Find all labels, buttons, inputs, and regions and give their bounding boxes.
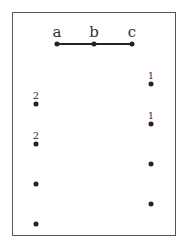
node-a <box>55 42 60 47</box>
right-dot-4 <box>149 202 154 207</box>
node-label-a: a <box>53 25 62 40</box>
node-label-c: c <box>128 25 136 40</box>
node-label-b: b <box>89 25 99 40</box>
left-dot-4 <box>34 222 39 227</box>
right-dot-1 <box>149 82 154 87</box>
right-dot-2 <box>149 122 154 127</box>
left-dot-1 <box>34 102 39 107</box>
left-dot-label-2: 2 <box>33 131 39 141</box>
node-c <box>130 42 135 47</box>
node-b <box>92 42 97 47</box>
right-dot-3 <box>149 162 154 167</box>
left-dot-2 <box>34 142 39 147</box>
right-dot-label-2: 1 <box>148 111 154 121</box>
right-dot-label-1: 1 <box>148 71 154 81</box>
left-dot-label-1: 2 <box>33 91 39 101</box>
left-dot-3 <box>34 182 39 187</box>
